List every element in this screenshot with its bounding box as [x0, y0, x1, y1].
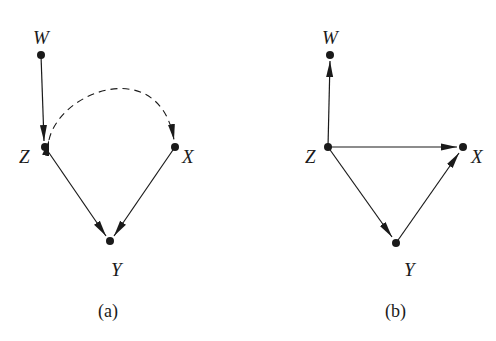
caption-a: (a)	[98, 301, 118, 322]
label-y: Y	[111, 259, 124, 280]
node-x	[171, 143, 179, 151]
edge-z-to-y	[328, 147, 392, 237]
label-w: W	[322, 27, 340, 48]
node-z	[324, 143, 332, 151]
edge-x-to-y	[114, 147, 175, 236]
node-y	[392, 239, 400, 247]
node-y	[106, 237, 114, 245]
caption-b: (b)	[385, 301, 406, 322]
edge-y-to-x	[396, 153, 459, 243]
edge-z-to-w	[328, 61, 330, 147]
causal-diagrams: W Z X Y (a) W Z X Y (b)	[0, 0, 496, 341]
label-y: Y	[404, 259, 417, 280]
label-z: Z	[305, 146, 316, 167]
edge-w-to-z	[41, 55, 44, 141]
panel-a: W Z X Y (a)	[19, 27, 195, 322]
label-x: X	[470, 146, 484, 167]
label-x: X	[181, 146, 195, 167]
node-z	[41, 143, 49, 151]
edge-z-to-y	[45, 147, 106, 236]
edge-z-x-bidirected	[49, 89, 174, 140]
label-w: W	[33, 27, 51, 48]
node-w	[37, 51, 45, 59]
node-w	[326, 51, 334, 59]
panel-b: W Z X Y (b)	[305, 27, 484, 322]
node-x	[459, 143, 467, 151]
label-z: Z	[19, 146, 30, 167]
